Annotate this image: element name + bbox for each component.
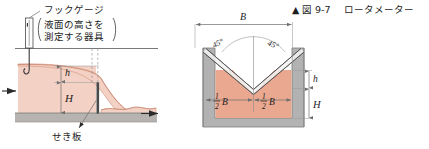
caption-title: ロータメーター <box>344 4 414 15</box>
caption-marker: ▲ <box>292 4 300 15</box>
caption-number: 図 9-7 <box>302 4 331 15</box>
hook-gauge-leader <box>29 11 40 18</box>
figure-container: h H フックゲージ 液面の高さを 測定する器具 せき板 <box>0 0 429 149</box>
half-B-left-numerator: 1 <box>215 92 219 101</box>
hook-gauge-note-line1: 液面の高さを <box>44 19 104 30</box>
angle-label-left: 45° <box>211 36 226 49</box>
weir-plate <box>97 82 100 114</box>
label-h-right: h <box>313 74 318 84</box>
hook-gauge-label: フックゲージ <box>44 4 104 15</box>
weir-plate-label: せき板 <box>52 131 82 142</box>
label-H-left: H <box>64 92 74 104</box>
half-B-left-symbol: B <box>222 97 228 107</box>
half-B-right-numerator: 1 <box>262 92 266 101</box>
hook-gauge-note: 液面の高さを 測定する器具 <box>38 18 115 42</box>
figure-caption: ▲ 図 9-7 ロータメーター <box>292 4 414 15</box>
left-diagram: h H フックゲージ 液面の高さを 測定する器具 せき板 <box>2 4 158 142</box>
channel-bed <box>15 113 157 122</box>
half-B-right-symbol: B <box>269 97 275 107</box>
right-diagram: 45° 45° B 1 2 B 1 2 B <box>195 11 322 127</box>
label-B: B <box>240 11 246 22</box>
half-B-left-denominator: 2 <box>215 102 219 111</box>
half-B-right-denominator: 2 <box>262 102 266 111</box>
label-h-left: h <box>65 67 70 78</box>
angle-label-right: 45° <box>266 39 280 52</box>
hook-gauge-note-line2: 測定する器具 <box>44 31 104 42</box>
label-H-right: H <box>312 99 322 110</box>
figure-9-7-svg: h H フックゲージ 液面の高さを 測定する器具 せき板 <box>0 0 429 149</box>
